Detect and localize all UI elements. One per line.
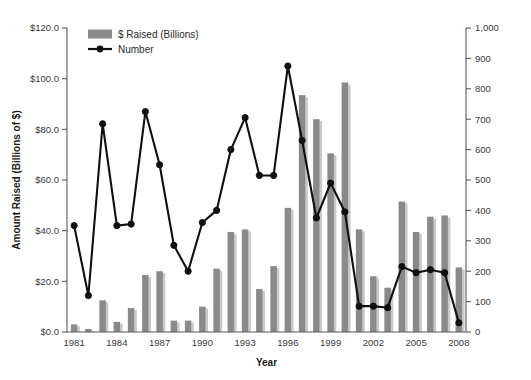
line-point-1982 [85, 292, 91, 298]
y-axis-tick-label: $120.0 [30, 22, 59, 33]
line-point-1989 [185, 268, 191, 274]
y-axis-tick-label: $20.0 [35, 276, 59, 287]
x-axis-tick-label: 2002 [363, 337, 384, 348]
line-point-1993 [242, 115, 248, 121]
y-axis-tick-label: $80.0 [35, 124, 59, 135]
y2-axis-tick-label: 300 [475, 235, 491, 246]
chart-background [0, 0, 531, 380]
line-point-2001 [356, 303, 362, 309]
line-point-1996 [285, 63, 291, 69]
bar-2006 [427, 217, 436, 332]
x-axis-tick-label: 1984 [106, 337, 127, 348]
y-axis-tick-label: $60.0 [35, 174, 59, 185]
x-axis-tick-label: 1996 [277, 337, 298, 348]
line-point-1997 [299, 137, 305, 143]
bar-1990 [199, 307, 208, 332]
dual-axis-chart: $0.0$20.0$40.0$60.0$80.0$100.0$120.00100… [0, 0, 531, 380]
y2-axis-tick-label: 700 [475, 114, 491, 125]
x-axis-tick-label: 1987 [149, 337, 170, 348]
line-point-1992 [228, 147, 234, 153]
legend-marker-number [97, 46, 104, 53]
line-point-2003 [385, 305, 391, 311]
bar-1991 [213, 269, 222, 332]
y-axis-tick-label: $100.0 [30, 73, 59, 84]
y2-axis-tick-label: 200 [475, 266, 491, 277]
x-axis-tick-label: 1990 [192, 337, 213, 348]
bar-1987 [156, 271, 165, 332]
bar-1985 [128, 308, 137, 332]
bar-1986 [142, 275, 151, 332]
x-axis-title: Year [256, 357, 277, 368]
y2-axis-tick-label: 100 [475, 296, 491, 307]
line-point-1984 [114, 223, 120, 229]
bar-2001 [356, 229, 365, 332]
line-point-1994 [256, 172, 262, 178]
line-point-1988 [171, 242, 177, 248]
x-axis-tick-label: 2005 [406, 337, 427, 348]
line-point-1983 [100, 121, 106, 127]
line-point-2007 [442, 270, 448, 276]
line-point-2006 [427, 267, 433, 273]
bar-1993 [242, 229, 251, 332]
line-point-2000 [342, 209, 348, 215]
line-point-1999 [328, 180, 334, 186]
bar-1994 [256, 289, 265, 332]
bar-1998 [313, 119, 322, 332]
y2-axis-tick-label: 400 [475, 205, 491, 216]
chart-container: $0.0$20.0$40.0$60.0$80.0$100.0$120.00100… [0, 0, 531, 380]
y2-axis-tick-label: 800 [475, 83, 491, 94]
bar-2005 [413, 232, 422, 332]
bar-1983 [99, 300, 108, 332]
line-point-2004 [399, 264, 405, 270]
legend-label-number: Number [118, 44, 154, 55]
legend-label-raised: $ Raised (Billions) [118, 29, 199, 40]
line-point-2002 [370, 303, 376, 309]
bar-1992 [228, 232, 237, 332]
bar-1996 [285, 208, 294, 332]
x-axis-tick-label: 1999 [320, 337, 341, 348]
line-point-2008 [456, 320, 462, 326]
line-point-1987 [157, 162, 163, 168]
line-point-1985 [128, 221, 134, 227]
y-axis-tick-label: $40.0 [35, 225, 59, 236]
line-point-1991 [214, 207, 220, 213]
y2-axis-tick-label: 600 [475, 144, 491, 155]
y-axis-title: Amount Raised (Billions of $) [11, 110, 22, 249]
y2-axis-tick-label: 500 [475, 174, 491, 185]
line-point-1986 [142, 109, 148, 115]
y2-axis-tick-label: 900 [475, 53, 491, 64]
line-point-1995 [271, 172, 277, 178]
bar-1995 [270, 266, 279, 332]
line-point-1981 [71, 223, 77, 229]
line-point-2005 [413, 270, 419, 276]
x-axis-tick-label: 1993 [235, 337, 256, 348]
x-axis-tick-label: 2008 [448, 337, 469, 348]
line-point-1990 [199, 219, 205, 225]
y-axis-tick-label: $0.0 [41, 326, 60, 337]
legend-swatch-raised [88, 30, 112, 39]
x-axis-tick-label: 1981 [64, 337, 85, 348]
line-point-1998 [313, 215, 319, 221]
y2-axis-tick-label: 0 [475, 326, 480, 337]
y2-axis-tick-label: 1,000 [475, 22, 499, 33]
